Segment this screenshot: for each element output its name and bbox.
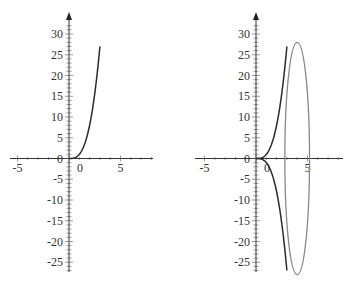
y-tick-label: 15 xyxy=(51,89,63,103)
y-tick-label: -20 xyxy=(47,235,63,249)
y-tick-label: 5 xyxy=(244,131,250,145)
y-tick-label: 5 xyxy=(57,131,63,145)
x-tick-label: 0 xyxy=(77,161,83,175)
y-tick-label: 0 xyxy=(57,152,63,166)
series-line-0 xyxy=(69,46,100,158)
y-tick-label: 25 xyxy=(51,48,63,62)
y-tick-label: 30 xyxy=(51,27,63,41)
x-tick-label: 5 xyxy=(118,161,124,175)
y-axis-arrow-icon xyxy=(66,12,72,20)
y-tick-label: 30 xyxy=(238,27,250,41)
y-tick-label: -5 xyxy=(240,172,250,186)
y-tick-label: -15 xyxy=(47,214,63,228)
y-tick-label: 10 xyxy=(238,110,250,124)
chart-figure: -25-20-15-10-5051015202530-505 -25-20-15… xyxy=(0,0,352,286)
y-tick-label: -10 xyxy=(234,193,250,207)
y-tick-label: 20 xyxy=(51,69,63,83)
x-tick-label: -5 xyxy=(200,161,210,175)
y-tick-label: 20 xyxy=(238,69,250,83)
y-axis-arrow-icon xyxy=(253,12,259,20)
left-plot: -25-20-15-10-5051015202530-505 xyxy=(10,12,153,272)
series-line-1 xyxy=(256,159,287,271)
y-tick-label: 25 xyxy=(238,48,250,62)
x-tick-label: -5 xyxy=(13,161,23,175)
y-tick-label: -5 xyxy=(53,172,63,186)
series-line-0 xyxy=(256,46,287,158)
y-tick-label: -25 xyxy=(47,255,63,269)
y-tick-label: -25 xyxy=(234,255,250,269)
y-tick-label: -20 xyxy=(234,235,250,249)
y-tick-label: 15 xyxy=(238,89,250,103)
right-plot: -25-20-15-10-5051015202530-505 xyxy=(195,12,343,275)
y-tick-label: 0 xyxy=(244,152,250,166)
y-tick-label: 10 xyxy=(51,110,63,124)
y-tick-label: -15 xyxy=(234,214,250,228)
y-tick-label: -10 xyxy=(47,193,63,207)
